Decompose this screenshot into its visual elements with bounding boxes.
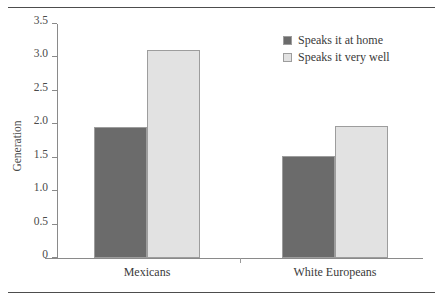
- y-axis-title: Generation: [11, 11, 23, 101]
- bottom-rule: [8, 292, 435, 293]
- y-tick-label: 1.5: [34, 149, 48, 161]
- bar-mexicans-series-1: [94, 127, 147, 258]
- y-tick-label: 3.5: [34, 15, 48, 27]
- legend: Speaks it at homeSpeaks it very well: [283, 33, 390, 67]
- y-tick-label: 3.0: [34, 48, 48, 60]
- y-tick-label: 0: [42, 249, 48, 261]
- legend-label: Speaks it very well: [298, 51, 390, 64]
- x-axis-line: [45, 258, 423, 259]
- top-rule: [8, 7, 435, 8]
- legend-item-2: Speaks it very well: [283, 50, 390, 65]
- legend-swatch-icon: [283, 36, 292, 45]
- y-tick-label: 2.5: [34, 82, 48, 94]
- bar-white-europeans-series-1: [282, 156, 335, 258]
- bar-mexicans-series-2: [147, 50, 200, 258]
- figure: Generation 00.51.01.52.02.53.03.5 Mexica…: [0, 0, 443, 303]
- y-tick-label: 0.5: [34, 216, 48, 228]
- y-tick-label: 2.0: [34, 115, 48, 127]
- x-axis-label-white-europeans: White Europeans: [255, 265, 415, 280]
- y-axis-title-label: Generation: [11, 101, 23, 191]
- category-separator-tick: [240, 258, 241, 263]
- y-tick-label: 1.0: [34, 182, 48, 194]
- bar-white-europeans-series-2: [335, 126, 388, 258]
- x-axis-label-mexicans: Mexicans: [67, 265, 227, 280]
- legend-swatch-icon: [283, 53, 292, 62]
- legend-item-1: Speaks it at home: [283, 33, 390, 48]
- legend-label: Speaks it at home: [298, 34, 383, 47]
